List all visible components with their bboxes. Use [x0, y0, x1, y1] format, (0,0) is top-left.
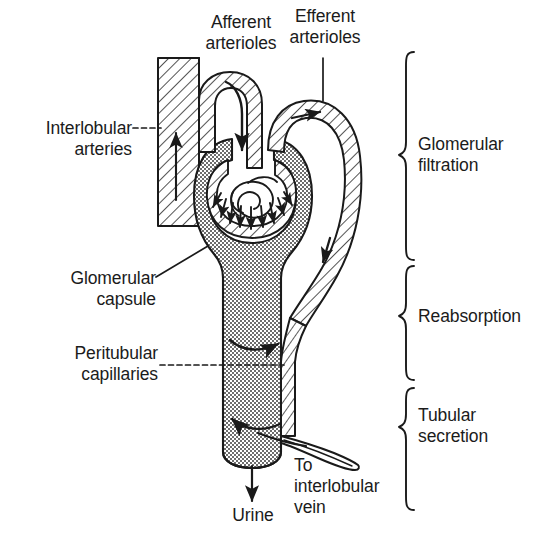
brace-reabsorption — [399, 266, 414, 380]
interlobular-artery-structure — [158, 58, 199, 226]
brace-label-reabsorption: Reabsorption — [418, 306, 538, 327]
brace-label-tubular-secretion: Tubular secretion — [418, 405, 528, 447]
leader-glomerular-capsule — [156, 246, 208, 277]
label-to-interlobular-vein: To interlobular vein — [294, 455, 414, 518]
label-efferent-arterioles: Efferent arterioles — [280, 6, 370, 48]
brace-glomerular-filtration — [399, 52, 414, 260]
label-peritubular-capillaries: Peritubular capillaries — [10, 343, 158, 385]
label-interlobular-arteries: Interlobular arteries — [14, 118, 132, 160]
nephron-diagram: Interlobular arteries Afferent arteriole… — [0, 0, 540, 546]
label-glomerular-capsule: Glomerular capsule — [10, 268, 156, 310]
peritubular-capillary-structure — [281, 318, 306, 436]
label-afferent-arterioles: Afferent arterioles — [196, 12, 286, 54]
brace-label-glomerular-filtration: Glomerular filtration — [418, 134, 536, 176]
label-urine: Urine — [208, 505, 298, 526]
